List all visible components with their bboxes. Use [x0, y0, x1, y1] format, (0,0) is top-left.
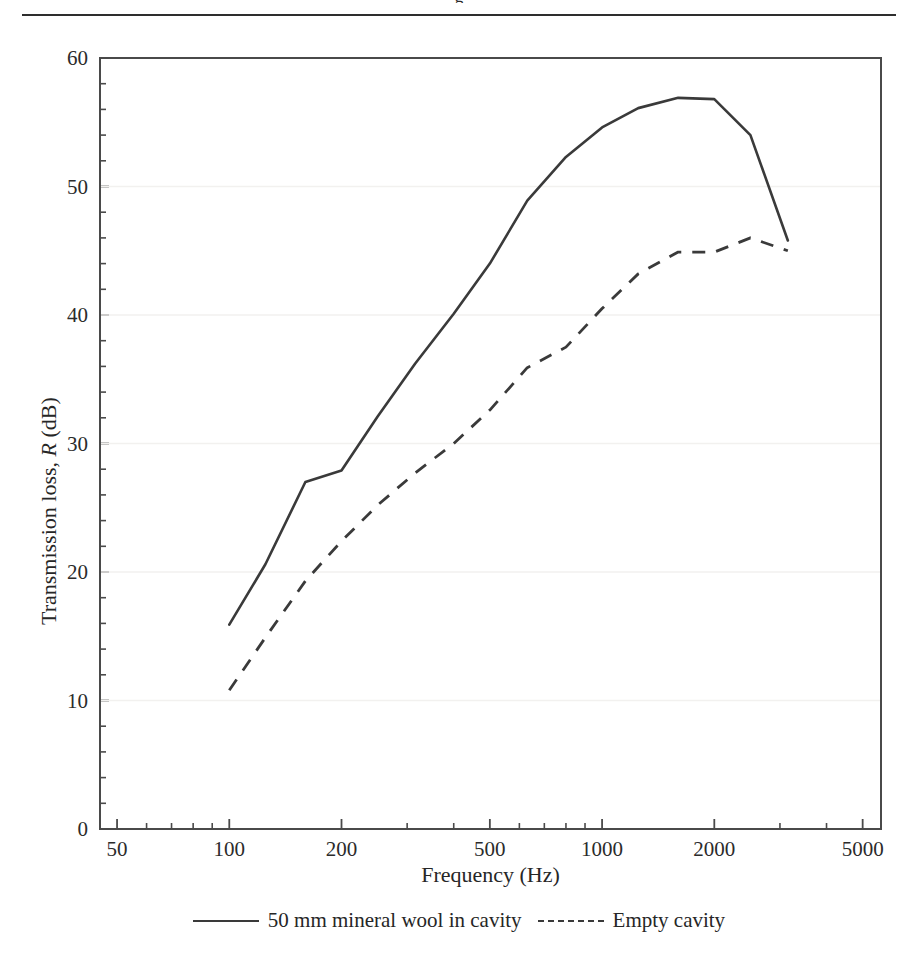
x-tick-label-500: 500 [474, 837, 506, 862]
x-tick-label-2000: 2000 [693, 837, 735, 862]
y-tick-label-50: 50 [40, 174, 88, 199]
y-tick-label-40: 40 [40, 303, 88, 328]
y-axis-title-prefix: Transmission loss, [36, 456, 61, 625]
x-tick-label-200: 200 [326, 837, 358, 862]
legend-label-mineral-wool: 50 mm mineral wool in cavity [268, 908, 522, 933]
x-axis-title: Frequency (Hz) [100, 862, 881, 888]
series-line-empty-cavity [229, 238, 788, 690]
chart-legend: 50 mm mineral wool in cavity Empty cavit… [0, 908, 918, 933]
legend-label-empty-cavity: Empty cavity [613, 908, 726, 933]
series-line-mineral-wool [229, 98, 788, 625]
y-tick-label-0: 0 [40, 817, 88, 842]
y-axis-title-symbol: R [36, 443, 61, 456]
y-tick-label-60: 60 [40, 46, 88, 71]
y-tick-label-10: 10 [40, 688, 88, 713]
figure-container: g 0102030405060 50100200500100020005000 … [0, 0, 918, 966]
legend-swatch-dashed-icon [538, 920, 604, 922]
legend-entry-empty-cavity: Empty cavity [538, 908, 726, 933]
legend-entry-mineral-wool: 50 mm mineral wool in cavity [193, 908, 522, 933]
x-tick-label-1000: 1000 [581, 837, 623, 862]
transmission-loss-plot [0, 0, 918, 966]
legend-swatch-solid-icon [193, 920, 259, 922]
y-axis-title-suffix: (dB) [36, 397, 61, 443]
x-tick-label-100: 100 [214, 837, 246, 862]
x-tick-label-50: 50 [107, 837, 128, 862]
y-axis-title: Transmission loss, R (dB) [36, 397, 62, 625]
x-tick-label-5000: 5000 [842, 837, 884, 862]
x-axis-major-ticks [117, 819, 863, 829]
